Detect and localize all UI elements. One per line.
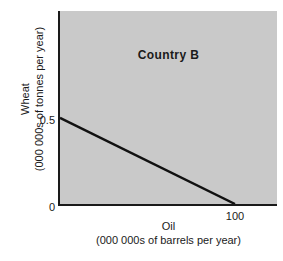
plot-svg: [60, 11, 277, 204]
x-axis-title: Oil: [60, 220, 277, 234]
x-axis-line: [58, 204, 277, 206]
y-axis-line: [58, 11, 60, 206]
y-axis-unit: (000 000s of tonnes per year): [33, 14, 47, 184]
y-axis-label: Wheat (000 000s of tonnes per year): [19, 14, 49, 184]
y-axis-title: Wheat: [19, 14, 33, 184]
ppf-line: [60, 118, 235, 204]
x-axis-unit: (000 000s of barrels per year): [60, 234, 277, 248]
figure-root: Country B 0.5 0 100 Wheat (000 000s of t…: [0, 0, 283, 261]
y-tick-label-0: 0: [0, 201, 55, 214]
x-axis-label: Oil (000 000s of barrels per year): [60, 220, 277, 247]
chart-title: Country B: [60, 48, 277, 62]
plot-area: [60, 11, 277, 204]
